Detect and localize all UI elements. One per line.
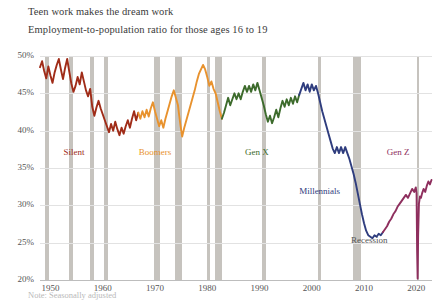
annotation-boomers: Boomers	[139, 147, 172, 157]
series-line-boomers	[138, 65, 222, 137]
series-line-gen-z	[383, 180, 432, 279]
chart-note: Note: Seasonally adjusted	[28, 290, 116, 300]
y-axis-tick-label: 30%	[0, 199, 34, 209]
plot-area: SilentBoomersGen XMillennialsGen ZRecess…	[40, 56, 432, 280]
annotation-millennials: Millennials	[299, 186, 340, 196]
y-axis-tick-label: 25%	[0, 237, 34, 247]
series-line-millennials	[299, 83, 383, 238]
chart-subtitle: Employment-to-population ratio for those…	[28, 24, 268, 35]
chart-container: Teen work makes the dream work Employmen…	[0, 0, 438, 304]
series-lines	[40, 56, 432, 280]
y-axis-tick-label: 20%	[0, 274, 34, 284]
series-line-gen-x	[222, 83, 299, 123]
x-axis-tick-label: 2020	[396, 283, 436, 293]
annotation-gen-z: Gen Z	[387, 147, 410, 157]
y-axis-tick-label: 50%	[0, 50, 34, 60]
y-axis-tick-label: 35%	[0, 162, 34, 172]
annotation-recession: Recession	[351, 235, 388, 245]
annotation-gen-x: Gen X	[245, 147, 269, 157]
x-axis-tick-label: 1970	[135, 283, 175, 293]
x-axis-tick-label: 1990	[240, 283, 280, 293]
x-axis-tick-label: 2010	[344, 283, 384, 293]
annotation-silent: Silent	[63, 147, 84, 157]
x-axis-tick-label: 1980	[187, 283, 227, 293]
chart-title: Teen work makes the dream work	[28, 6, 173, 17]
series-line-silent	[40, 59, 138, 135]
y-axis-tick-label: 45%	[0, 87, 34, 97]
y-axis-tick-label: 40%	[0, 125, 34, 135]
gridline	[40, 280, 432, 281]
x-axis-tick-label: 2000	[292, 283, 332, 293]
